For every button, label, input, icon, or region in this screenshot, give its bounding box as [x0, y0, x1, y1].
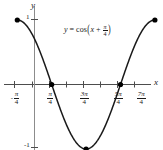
- equation-equals: =: [70, 25, 75, 34]
- data-point-3: [118, 82, 123, 87]
- y-tick-label-minus-1: -1: [24, 142, 30, 149]
- x-tick-3-denominator: 4: [114, 99, 123, 106]
- data-point-0: [15, 17, 20, 22]
- equation-open-paren: (: [87, 23, 91, 37]
- x-tick-label-2: 3π4: [74, 91, 94, 106]
- equation-argument-variable: x: [90, 25, 94, 34]
- x-tick-label-3: 5π4: [108, 91, 128, 106]
- data-point-1: [49, 82, 54, 87]
- x-tick-1-denominator: 4: [47, 99, 53, 106]
- equation-plus-sign: +: [96, 25, 101, 34]
- data-point-4: [152, 17, 157, 22]
- marked-points-group: [15, 17, 158, 150]
- figure-cosine-shift: y x 1 -1 -π4 π4 3π4 5π4 7π4 y = cos(x + …: [0, 0, 163, 150]
- y-axis-name: y: [31, 1, 35, 10]
- equation-lhs: y: [64, 25, 68, 34]
- data-point-2: [84, 146, 89, 150]
- y-tick-label-1: 1: [26, 14, 30, 21]
- x-tick-2-denominator: 4: [80, 99, 89, 106]
- x-tick-4-denominator: 4: [137, 99, 146, 106]
- x-tick-label-4: 7π4: [131, 91, 151, 106]
- equation-function-name: cos: [76, 25, 87, 34]
- x-tick-label-0: -π4: [5, 91, 25, 106]
- x-tick-0-denominator: 4: [14, 99, 20, 106]
- equation-annotation: y = cos(x + π4): [64, 24, 111, 37]
- x-axis-name: x: [154, 78, 158, 87]
- equation-close-paren: ): [108, 23, 112, 37]
- chart-canvas: [0, 0, 163, 150]
- x-tick-label-1: π4: [41, 91, 59, 106]
